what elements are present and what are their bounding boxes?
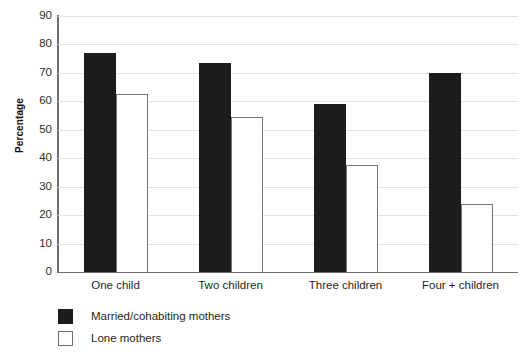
plot-area: [58, 16, 518, 272]
bar: [429, 73, 461, 272]
gridline: [58, 44, 518, 45]
bar: [231, 117, 263, 272]
y-tick-label: 30: [8, 181, 52, 193]
chart-legend: Married/cohabiting mothersLone mothers: [58, 305, 230, 349]
legend-swatch-icon: [58, 331, 73, 346]
y-axis-tick-labels: 9080706050403020100: [0, 0, 52, 362]
y-tick-label: 20: [8, 209, 52, 221]
y-tick-label: 70: [8, 67, 52, 79]
bar: [461, 204, 493, 272]
legend-label: Married/cohabiting mothers: [91, 310, 230, 322]
bar: [346, 165, 378, 272]
x-category-label: Four + children: [391, 279, 531, 291]
bar: [314, 104, 346, 272]
gridline: [58, 16, 518, 17]
y-tick-label: 0: [8, 266, 52, 278]
legend-swatch-icon: [58, 309, 73, 324]
bar: [116, 94, 148, 272]
y-tick-label: 60: [8, 95, 52, 107]
y-tick-label: 80: [8, 38, 52, 50]
bar-chart: Percentage 9080706050403020100 One child…: [0, 0, 531, 362]
legend-item: Married/cohabiting mothers: [58, 305, 230, 327]
y-tick-label: 40: [8, 152, 52, 164]
y-tick-label: 50: [8, 124, 52, 136]
y-tick-label: 10: [8, 238, 52, 250]
legend-item: Lone mothers: [58, 327, 230, 349]
y-tick-label: 90: [8, 10, 52, 22]
bar: [199, 63, 231, 272]
bar: [84, 53, 116, 272]
legend-label: Lone mothers: [91, 332, 161, 344]
